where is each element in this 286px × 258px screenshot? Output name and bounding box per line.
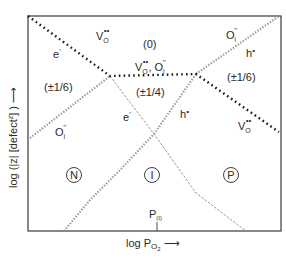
oxygen-interstitial-line-right [196,16,279,74]
label-vo-right: VO•• [238,116,252,134]
label-slope-left: (±1/6) [44,81,73,93]
label-slope-zero: (0) [143,38,156,50]
defect-diagram: VO•• e' (0) VO••, Oi'' Oi'' h• (±1/6) (±… [0,0,286,258]
svg-text:N: N [70,169,78,181]
label-e-middle: e' [123,110,131,123]
y-axis-label: log (|z| [defectz] )⟶ [7,87,19,188]
label-vo-top-left: VO•• [96,26,110,44]
label-e-upper-left: e' [53,47,61,60]
label-slope-center: (±1/4) [136,86,165,98]
x-axis-label: log PO2⟶ [126,237,180,252]
label-oi-left: Oi'' [55,123,67,140]
label-h-middle: h• [180,107,189,120]
region-i-marker: I [145,168,160,183]
svg-text:I: I [150,169,153,181]
region-n-marker: N [67,168,82,183]
svg-text:P: P [227,169,234,181]
label-h-upper-right: h• [246,46,255,59]
label-p-marker: P(I) [149,208,162,221]
region-p-marker: P [224,168,239,183]
label-plateau: VO••, Oi'' [135,57,166,75]
label-slope-right: (±1/6) [227,71,256,83]
label-oi-top-right: Oi'' [226,26,238,43]
